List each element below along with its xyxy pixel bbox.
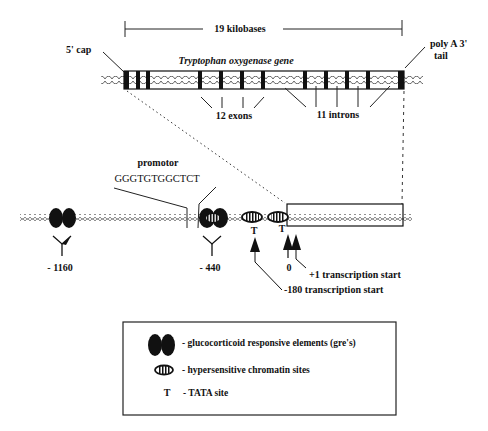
introns-label: 11 introns (317, 109, 359, 120)
exon-6 (240, 71, 244, 89)
gene-structure (101, 71, 423, 89)
exon-4 (198, 71, 202, 89)
expansion-line-right (402, 91, 404, 204)
five-prime-cap-label: 5' cap (66, 44, 92, 55)
promotor-sequence: GGGTGTGGCTCT (114, 173, 200, 184)
exon-7 (261, 71, 265, 89)
arrow-zero (283, 234, 293, 258)
legend-tata-icon: T (164, 387, 171, 398)
scale-bar-label: 19 kilobases (214, 23, 266, 34)
gre-position-1160: - 1160 (47, 262, 72, 273)
exons-label: 12 exons (216, 110, 253, 121)
exon-12 (398, 71, 404, 89)
downstream-dna (404, 76, 423, 84)
expansion-line-left (127, 91, 285, 203)
minus-180-start-label: -180 transcription start (284, 284, 384, 295)
arrow-minus-180 (250, 237, 282, 290)
five-prime-cap-pointer (103, 52, 124, 72)
gre-position-440: - 440 (200, 262, 221, 273)
gene-diagram: 19 kilobases Tryptophan oxygenase gene 5… (0, 0, 488, 431)
exon-5 (219, 71, 223, 89)
exon-9 (324, 71, 328, 89)
receptor-icon-440 (203, 236, 221, 256)
poly-a-label-line1: poly A 3' (430, 38, 467, 49)
poly-a-label-line2: tail (434, 50, 448, 61)
hypersensitive-site-1 (242, 212, 262, 222)
exon-11 (366, 71, 370, 89)
arrow-plus-one (291, 234, 306, 268)
scale-bar: 19 kilobases (125, 20, 402, 37)
promotor-label: promotor (138, 157, 179, 168)
legend-tata-text: - TATA site (183, 388, 228, 398)
gre-pair-1160 (49, 208, 76, 228)
upstream-dna (101, 76, 125, 84)
exon-3 (146, 71, 150, 89)
tata-label-1: T (251, 225, 258, 236)
hypersensitive-site-2 (268, 212, 288, 222)
promotor-bracket-left (114, 188, 187, 228)
exon-10 (345, 71, 349, 89)
legend: - glucocorticoid responsive elements (gr… (123, 322, 396, 415)
gene-title: Tryptophan oxygenase gene (178, 55, 294, 66)
exon-8 (303, 71, 307, 89)
exon-pointers (201, 97, 264, 108)
exon-1 (124, 71, 129, 89)
poly-a-pointer (405, 47, 425, 68)
receptor-icon-1160 (53, 236, 71, 256)
legend-hypersensitive-text: - hypersensitive chromatin sites (182, 365, 310, 375)
legend-hypersensitive-icon (155, 366, 173, 375)
zero-position-label: 0 (287, 262, 292, 273)
exon-2 (136, 71, 140, 89)
legend-gre-text: - glucocorticoid responsive elements (gr… (182, 338, 356, 349)
tata-label-2: T (279, 223, 286, 234)
plus-one-start-label: +1 transcription start (309, 269, 401, 280)
gre-pair-440 (199, 208, 228, 228)
